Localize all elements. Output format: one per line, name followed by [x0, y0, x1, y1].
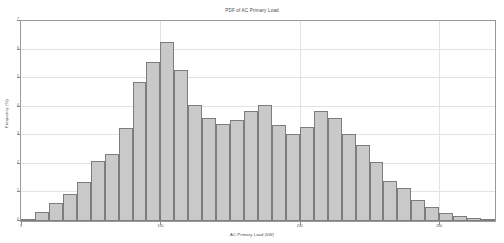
histogram-bar	[370, 162, 384, 221]
histogram-bar	[77, 182, 91, 221]
histogram-bar	[411, 200, 425, 221]
histogram-bar	[383, 181, 397, 221]
histogram-bar	[160, 42, 174, 221]
histogram-bar	[188, 105, 202, 221]
x-tick-label: 300	[427, 225, 451, 229]
x-tick-label: 100	[148, 225, 172, 229]
y-tick-label: 4	[12, 104, 19, 108]
histogram-bar	[133, 82, 147, 221]
histogram-bar	[258, 105, 272, 221]
y-tick-label: 5	[12, 75, 19, 79]
y-tick-label: 3	[12, 132, 19, 136]
plot-area	[20, 20, 496, 222]
histogram-bar	[49, 203, 63, 221]
histogram-bar	[174, 70, 188, 221]
x-tick-label: 200	[288, 225, 312, 229]
histogram-bar	[119, 128, 133, 221]
histogram-bar	[230, 120, 244, 221]
histogram-bars	[21, 21, 495, 221]
x-axis-label: AC Primary Load (kW)	[0, 232, 504, 237]
y-axis-label: Frequency (%)	[4, 84, 9, 144]
histogram-bar	[63, 194, 77, 221]
chart-figure: PDF of AC Primary Load 01234567010020030…	[0, 0, 504, 243]
histogram-bar	[146, 62, 160, 221]
histogram-bar	[286, 134, 300, 221]
histogram-bar	[35, 212, 49, 221]
y-tick-label: 6	[12, 47, 19, 51]
histogram-bar	[439, 213, 453, 221]
histogram-bar	[202, 118, 216, 221]
histogram-bar	[356, 145, 370, 221]
histogram-bar	[216, 124, 230, 221]
chart-title: PDF of AC Primary Load	[0, 8, 504, 13]
histogram-bar	[425, 207, 439, 221]
histogram-bar	[272, 125, 286, 221]
histogram-bar	[91, 161, 105, 221]
histogram-bar	[453, 216, 467, 221]
histogram-bar	[244, 111, 258, 221]
y-tick-label: 2	[12, 161, 19, 165]
histogram-bar	[105, 154, 119, 221]
histogram-bar	[467, 218, 481, 221]
y-tick-label: 0	[12, 218, 19, 222]
histogram-bar	[342, 134, 356, 221]
x-tick-label: 0	[9, 225, 33, 229]
histogram-bar	[21, 219, 35, 221]
histogram-bar	[481, 219, 495, 221]
y-tick-label: 7	[12, 18, 19, 22]
histogram-bar	[300, 127, 314, 221]
histogram-bar	[314, 111, 328, 221]
histogram-bar	[397, 188, 411, 221]
histogram-bar	[328, 118, 342, 221]
y-tick-label: 1	[12, 189, 19, 193]
